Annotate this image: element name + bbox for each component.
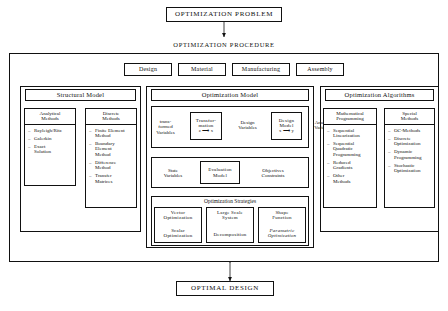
list-special-methods-header: Special Methods <box>385 109 434 125</box>
optimization-procedure-title-bar: OPTIMIZATION PROCEDURE <box>9 37 439 54</box>
list-item[interactable]: BoundaryElementMethod <box>89 141 134 157</box>
list-item[interactable]: DynamicProgramming <box>388 149 432 160</box>
strategy-bottom-label: ParametricOptimization <box>268 228 297 239</box>
list-item[interactable]: OtherMethods <box>327 173 374 184</box>
list-item[interactable]: SequentialLinearization <box>327 128 374 139</box>
list-special-methods: Special Methods OC-Methods DiscreteOptim… <box>384 108 435 208</box>
label-design-variables: DesignVariables <box>231 114 264 136</box>
list-item[interactable]: StochasticOptimization <box>388 163 432 174</box>
label-state-variables: StateVariables <box>156 162 190 184</box>
header-optimization-algorithms: Optimization Algorithms <box>325 89 434 101</box>
list-item[interactable]: OC-Methods <box>388 128 432 133</box>
transformation-map: z ⟶ x <box>199 129 214 134</box>
header-optimization-model-label: Optimization Model <box>202 92 259 99</box>
list-item[interactable]: SequentialQuadraticProgramming <box>327 141 374 157</box>
aspect-box-manufacturing-label: Manufacturing <box>242 66 280 72</box>
aspect-box-manufacturing[interactable]: Manufacturing <box>232 63 290 76</box>
header-structural-model-label: Structural Model <box>57 92 104 99</box>
node-optimization-problem-label: OPTIMIZATION PROBLEM <box>175 11 273 18</box>
strategy-cell-shape-function[interactable]: ShapeFunction ParametricOptimization <box>258 207 306 243</box>
strategy-top-label: VectorOptimization <box>164 210 193 221</box>
box-design-model[interactable]: DesignModel x ⟶ y <box>271 112 302 140</box>
list-discrete-methods: Discrete Methods Finite ElementMethod Bo… <box>85 108 137 208</box>
design-model-map: x ⟶ y <box>279 129 294 134</box>
list-item[interactable]: ReducedGradients <box>327 160 374 171</box>
aspect-box-design[interactable]: Design <box>124 63 172 76</box>
label-objectives-constraints: ObjectivesConstraints <box>252 162 294 184</box>
node-optimization-problem: OPTIMIZATION PROBLEM <box>166 7 282 22</box>
strategy-top-label: ShapeFunction <box>272 210 291 221</box>
list-item[interactable]: Rayleigh/Ritz <box>28 128 73 133</box>
aspect-box-assembly[interactable]: Assembly <box>296 63 344 76</box>
header-optimization-algorithms-label: Optimization Algorithms <box>345 92 415 99</box>
optimization-strategies-title: Optimization Strategies <box>151 197 309 206</box>
strategy-bottom-label: Decomposition <box>213 232 246 237</box>
box-transformation[interactable]: Transfor-mation z ⟶ x <box>190 112 222 140</box>
node-optimal-design: OPTIMAL DESIGN <box>176 281 274 296</box>
aspect-box-assembly-label: Assembly <box>307 66 333 72</box>
list-analytical-methods: Analytical Methods Rayleigh/Ritz Galerki… <box>24 108 76 186</box>
list-mathematical-programming-header: Mathematical Programming <box>324 109 376 125</box>
list-item[interactable]: Galerkin <box>28 136 73 141</box>
list-item[interactable]: Finite ElementMethod <box>89 128 134 139</box>
flowchart-canvas: OPTIMIZATION PROBLEM OPTIMIZATION PROCED… <box>0 0 448 311</box>
label-transformed-variables: trans-formedVariables <box>152 110 179 144</box>
aspect-box-material[interactable]: Material <box>178 63 226 76</box>
box-evaluation-model[interactable]: EvaluationModel <box>200 161 240 184</box>
optimization-procedure-title: OPTIMIZATION PROCEDURE <box>173 42 275 49</box>
strategy-top-label: Large ScaleSystem <box>217 210 243 221</box>
list-mathematical-programming: Mathematical Programming SequentialLinea… <box>323 108 377 208</box>
list-discrete-methods-header: Discrete Methods <box>86 109 136 125</box>
node-optimal-design-label: OPTIMAL DESIGN <box>191 285 259 292</box>
list-item[interactable]: ExactSolution <box>28 144 73 155</box>
aspect-box-material-label: Material <box>191 66 213 72</box>
header-optimization-model: Optimization Model <box>151 89 309 101</box>
list-item[interactable]: TransferMatrices <box>89 173 134 184</box>
list-analytical-methods-header: Analytical Methods <box>25 109 75 125</box>
aspect-box-design-label: Design <box>139 66 157 72</box>
list-item[interactable]: DiscreteOptimization <box>388 136 432 147</box>
strategy-cell-large-scale[interactable]: Large ScaleSystem Decomposition <box>206 207 254 243</box>
header-structural-model: Structural Model <box>25 89 136 101</box>
strategy-bottom-label: ScalarOptimization <box>164 228 193 239</box>
list-item[interactable]: DifferenceMethod <box>89 160 134 171</box>
strategy-cell-vector[interactable]: VectorOptimization ScalarOptimization <box>154 207 202 243</box>
